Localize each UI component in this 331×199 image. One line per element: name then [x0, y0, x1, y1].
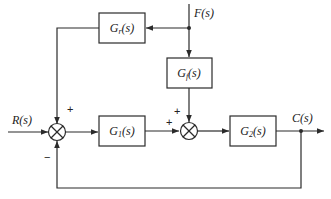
summing-junction-1	[49, 124, 66, 141]
summing-junction-2	[181, 123, 198, 140]
block-g2-label: G2(s)	[240, 124, 265, 139]
block-gf: Gf(s)	[167, 58, 212, 88]
input-label: R(s)	[11, 113, 32, 127]
sum1-bottom-sign: −	[44, 151, 50, 163]
block-g1: G1(s)	[99, 116, 145, 146]
sum2-left-sign: +	[166, 116, 172, 128]
gr-to-sum1-line	[57, 28, 99, 124]
sum1-top-sign: +	[67, 103, 73, 115]
block-g2: G2(s)	[230, 116, 276, 146]
sum2-top-sign: +	[174, 105, 180, 117]
block-gr-label: Gr(s)	[110, 21, 134, 36]
block-gr: Gr(s)	[99, 13, 145, 43]
block-diagram: F(s) Gr(s) Gf(s) R(s) + − G1(s) +	[0, 0, 331, 199]
disturbance-label: F(s)	[193, 6, 214, 20]
block-gf-label: Gf(s)	[177, 66, 201, 81]
output-label: C(s)	[292, 111, 313, 125]
block-g1-label: G1(s)	[109, 124, 134, 139]
